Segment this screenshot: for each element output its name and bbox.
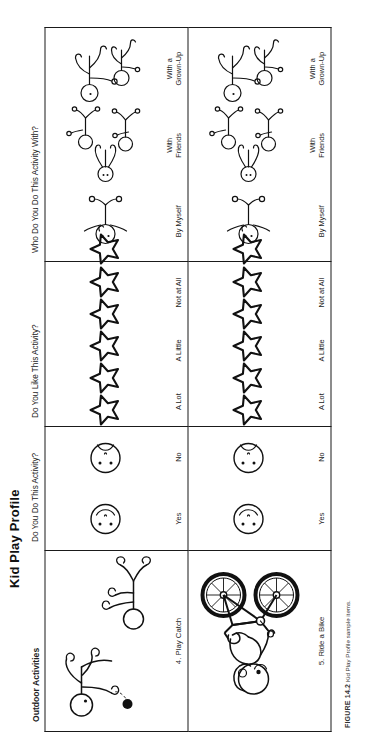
one-person-icon (75, 194, 135, 252)
star-icon (88, 266, 122, 330)
scale-label-yes: Yes (317, 513, 325, 525)
star-icon (88, 330, 122, 426)
adult-and-child-icon (69, 28, 141, 106)
cell-activity-play-catch: 4. Play Catch (45, 551, 188, 732)
scale-label-by-myself: By Myself (174, 205, 182, 237)
option-with-friends-ride-a-bike[interactable] (192, 106, 304, 184)
three-children-icon (212, 106, 284, 184)
option-with-grown-up-ride-a-bike[interactable] (192, 28, 304, 106)
option-a-little-play-catch[interactable] (49, 266, 161, 330)
option-no-play-catch[interactable] (49, 427, 161, 489)
option-with-friends-play-catch[interactable] (49, 106, 161, 184)
scale-label-no: No (317, 452, 325, 461)
cell-like-ride-a-bike: A Lot A Little Not at All (188, 262, 331, 427)
option-yes-play-catch[interactable] (49, 489, 161, 551)
scale-label-a-lot: A Lot (317, 393, 325, 410)
cell-like-play-catch: A Lot A Little Not at All (45, 262, 188, 427)
option-by-myself-play-catch[interactable] (49, 184, 161, 261)
scale-label-a-little: A Little (317, 339, 325, 361)
play-catch-illustration (49, 551, 161, 731)
activity-label: 4. Play Catch (173, 551, 182, 731)
ride-a-bike-illustration (192, 551, 304, 731)
scale-label-a-little: A Little (174, 339, 182, 361)
scale-label-by-myself: By Myself (317, 205, 325, 237)
figure-caption-text: Kid Play Profile sample items. (343, 600, 350, 682)
activity-label: 5. Ride a Bike (316, 551, 325, 731)
column-header-do: Do You Do This Activity? (30, 453, 39, 542)
cell-do-play-catch: Yes No (45, 427, 188, 551)
smiley-face-icon (228, 499, 268, 539)
cell-do-ride-a-bike: Yes No (188, 427, 331, 551)
page-body: Kid Play Profile Outdoor Activities Do Y… (0, 0, 375, 740)
frowny-face-icon (228, 438, 268, 478)
star-icon (231, 266, 265, 330)
one-person-icon (218, 194, 278, 252)
cell-who-ride-a-bike: By Myself With Friends With a Grown-Up (188, 28, 331, 262)
option-by-myself-ride-a-bike[interactable] (192, 184, 304, 261)
scale-label-no: No (174, 452, 182, 461)
cell-who-play-catch: By Myself With Friends With a Grown-Up (45, 28, 188, 262)
table-row: 4. Play Catch (45, 28, 188, 732)
figure-caption: FIGURE 14.2 Kid Play Profile sample item… (342, 28, 351, 728)
column-header-who: Who Do You Do This Activity With? (30, 126, 39, 253)
option-a-lot-ride-a-bike[interactable] (192, 330, 304, 426)
option-a-lot-play-catch[interactable] (49, 330, 161, 426)
figure-caption-label: FIGURE 14.2 (343, 684, 350, 728)
page-title: Kid Play Profile (6, 489, 21, 588)
scale-label-a-lot: A Lot (174, 393, 182, 410)
frowny-face-icon (85, 438, 125, 478)
adult-and-child-icon (212, 28, 284, 106)
scale-label-with-grown-up: With a Grown-Up (308, 52, 325, 86)
cell-activity-ride-a-bike: 5. Ride a Bike (188, 551, 331, 732)
option-yes-ride-a-bike[interactable] (192, 489, 304, 551)
scale-label-not-at-all: Not at All (174, 278, 182, 308)
star-icon (231, 330, 265, 426)
scale-label-not-at-all: Not at All (317, 278, 325, 308)
smiley-face-icon (85, 499, 125, 539)
option-a-little-ride-a-bike[interactable] (192, 266, 304, 330)
scale-label-with-friends: With Friends (308, 133, 325, 158)
column-header-like: Do You Like This Activity? (30, 324, 39, 418)
option-with-grown-up-play-catch[interactable] (49, 28, 161, 106)
scale-label-with-grown-up: With a Grown-Up (165, 52, 182, 86)
scanned-page: Kid Play Profile Outdoor Activities Do Y… (0, 0, 375, 740)
column-header-activities: Outdoor Activities (30, 648, 40, 722)
table-row: 5. Ride a Bike (188, 28, 331, 732)
scale-label-yes: Yes (174, 513, 182, 525)
three-children-icon (69, 106, 141, 184)
kid-play-profile-table: 4. Play Catch (44, 27, 331, 732)
option-no-ride-a-bike[interactable] (192, 427, 304, 489)
scale-label-with-friends: With Friends (165, 133, 182, 158)
